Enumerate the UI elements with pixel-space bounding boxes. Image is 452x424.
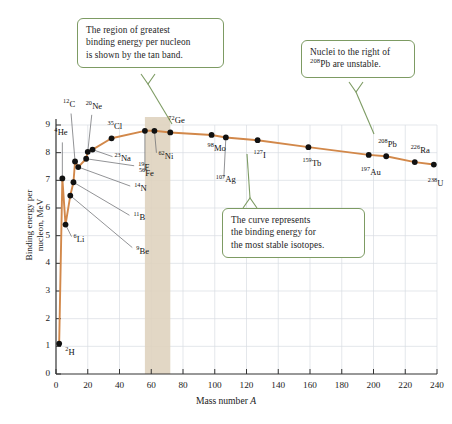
nuclide-element-symbol: Ni bbox=[165, 151, 174, 161]
nuclide-label-72Ge: 72Ge bbox=[168, 116, 184, 125]
nuclide-element-symbol: B bbox=[140, 212, 146, 222]
unstable-nuclei-callout: Nuclei to the right of 208Pb are unstabl… bbox=[301, 40, 415, 78]
x-tick-label: 240 bbox=[430, 381, 444, 390]
nuclide-mass-number: 62 bbox=[158, 149, 164, 156]
nuclide-element-symbol: Ge bbox=[175, 115, 185, 125]
nuclide-element-symbol: Ne bbox=[92, 101, 102, 111]
data-point-9Be bbox=[67, 193, 73, 199]
nuclide-element-symbol: Na bbox=[121, 153, 131, 163]
x-tick-label: 140 bbox=[271, 381, 285, 390]
x-tick-label: 200 bbox=[367, 381, 381, 390]
nuclide-label-2H: 2H bbox=[65, 348, 75, 357]
nuclide-element-symbol: N bbox=[141, 183, 147, 193]
nuclide-mass-number: 35 bbox=[108, 119, 114, 126]
data-point-226Ra bbox=[412, 159, 418, 165]
nuclide-element-symbol: Au bbox=[370, 167, 381, 177]
curve-meaning-callout: The curve represents the binding energy … bbox=[222, 208, 365, 258]
nuclide-label-62Ni: 62Ni bbox=[158, 152, 173, 161]
nuclide-label-4He: 4He bbox=[54, 128, 67, 137]
callout-band-line1: The region of greatest bbox=[86, 24, 215, 36]
data-point-98Mo bbox=[209, 132, 215, 138]
nuclide-mass-number: 11 bbox=[133, 210, 139, 217]
y-axis-title: Binding energy per nucleon, MeV bbox=[24, 125, 46, 325]
y-axis-title-line1: Binding energy per bbox=[24, 125, 35, 325]
data-point-159Tb bbox=[306, 144, 312, 150]
nuclide-label-107Ag: 107Ag bbox=[216, 175, 236, 184]
nuclide-label-238U: 238U bbox=[428, 179, 444, 188]
nuclide-element-symbol: Ra bbox=[420, 145, 430, 155]
nuclide-element-symbol: Fe bbox=[145, 168, 154, 178]
binding-energy-chart: The region of greatest binding energy pe… bbox=[0, 0, 452, 424]
data-point-35Cl bbox=[109, 135, 115, 141]
nuclide-element-symbol: C bbox=[69, 99, 75, 109]
y-tick-label: 0 bbox=[32, 369, 50, 378]
y-tick-label: 1 bbox=[32, 342, 50, 351]
x-tick-label: 80 bbox=[178, 381, 187, 390]
nuclide-element-symbol: H bbox=[68, 347, 74, 357]
data-point-14N bbox=[75, 164, 81, 170]
callout-unstable-line1: Nuclei to the right of bbox=[310, 46, 406, 58]
data-point-12C bbox=[72, 159, 78, 165]
nuclide-label-11B: 11B bbox=[133, 213, 145, 222]
data-point-238U bbox=[431, 162, 437, 168]
nuclide-label-9Be: 9Be bbox=[136, 247, 149, 256]
data-point-19F bbox=[83, 156, 89, 162]
x-tick-label: 100 bbox=[208, 381, 222, 390]
callout-unstable-line2: 208Pb are unstable. bbox=[310, 58, 406, 70]
nuclide-element-symbol: I bbox=[263, 150, 266, 160]
nuclide-mass-number: 14 bbox=[134, 181, 140, 188]
x-tick-label: 40 bbox=[115, 381, 124, 390]
nuclide-element-symbol: Tb bbox=[312, 158, 322, 168]
nuclide-element-symbol: Cl bbox=[114, 121, 122, 131]
nuclide-label-127I: 127I bbox=[254, 151, 266, 160]
nuclide-mass-number: 23 bbox=[115, 151, 121, 158]
data-point-208Pb bbox=[383, 153, 389, 159]
nuclide-mass-number: 72 bbox=[168, 114, 174, 121]
data-point-23Na bbox=[90, 147, 96, 153]
data-point-11B bbox=[71, 179, 77, 185]
nuclide-label-20Ne: 20Ne bbox=[86, 102, 102, 111]
nuclide-mass-number: 98 bbox=[208, 141, 214, 148]
nuclide-mass-number: 20 bbox=[86, 99, 92, 106]
callout-band-line3: is shown by the tan band. bbox=[86, 49, 215, 61]
data-point-56Fe bbox=[142, 128, 148, 134]
nuclide-mass-number: 107 bbox=[216, 173, 225, 180]
nuclide-element-symbol: Be bbox=[140, 246, 150, 256]
nuclide-element-symbol: Mo bbox=[214, 143, 226, 153]
x-axis-title-symbol: A bbox=[250, 395, 256, 406]
nuclide-mass-number: 226 bbox=[411, 143, 420, 150]
nuclide-label-6Li: 6Li bbox=[74, 235, 85, 244]
nuclide-label-12C: 12C bbox=[63, 100, 75, 109]
nuclide-label-23Na: 23Na bbox=[115, 154, 131, 163]
nuclide-mass-number: 238 bbox=[428, 176, 437, 183]
x-tick-label: 180 bbox=[335, 381, 349, 390]
nuclide-element-symbol: Li bbox=[77, 234, 85, 244]
nuclide-label-226Ra: 226Ra bbox=[411, 146, 430, 155]
x-tick-label: 20 bbox=[83, 381, 92, 390]
x-tick-label: 160 bbox=[303, 381, 317, 390]
nuclide-label-98Mo: 98Mo bbox=[208, 144, 226, 153]
data-point-72Ge bbox=[167, 130, 173, 136]
callout-curve-line1: The curve represents bbox=[231, 214, 356, 226]
nuclide-label-208Pb: 208Pb bbox=[378, 140, 397, 149]
nuclide-mass-number: 127 bbox=[254, 148, 263, 155]
nuclide-label-159Tb: 159Tb bbox=[302, 159, 321, 168]
data-point-2H bbox=[56, 341, 62, 347]
pb-mass-superscript: 208 bbox=[310, 57, 320, 64]
x-axis-title-text: Mass number bbox=[196, 395, 250, 406]
nuclide-mass-number: 197 bbox=[361, 165, 370, 172]
nuclide-element-symbol: U bbox=[437, 178, 443, 188]
nuclide-label-56Fe: 56Fe bbox=[139, 169, 154, 178]
x-tick-label: 220 bbox=[398, 381, 412, 390]
x-axis-title: Mass number A bbox=[0, 396, 452, 406]
nuclide-label-197Au: 197Au bbox=[361, 168, 381, 177]
callout-curve-line3: the most stable isotopes. bbox=[231, 239, 356, 251]
data-point-197Au bbox=[366, 152, 372, 158]
callout-band-line2: binding energy per nucleon bbox=[86, 36, 215, 48]
data-point-62Ni bbox=[152, 128, 158, 134]
data-point-107Ag bbox=[223, 135, 229, 141]
data-point-6Li bbox=[63, 222, 69, 228]
x-tick-label: 0 bbox=[54, 381, 59, 390]
nuclide-label-14N: 14N bbox=[134, 184, 147, 193]
tan-band-callout: The region of greatest binding energy pe… bbox=[77, 18, 224, 68]
